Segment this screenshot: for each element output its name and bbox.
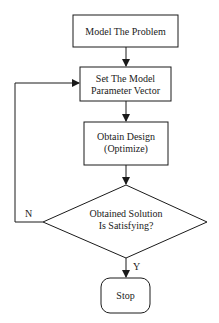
node-set-parameter-vector: Set The Model Parameter Vector (80, 67, 171, 101)
node-decision-satisfying: Obtained Solution Is Satisfying? (43, 185, 207, 258)
node-label-line-1: Obtain Design (97, 131, 155, 142)
flowchart: Model The Problem Set The Model Paramete… (0, 0, 219, 323)
edge-label-no: N (25, 208, 32, 219)
node-label-line-1: Obtained Solution (89, 208, 162, 219)
node-label-line-1: Set The Model (96, 73, 155, 84)
node-label-line-2: Parameter Vector (91, 85, 161, 96)
node-obtain-design: Obtain Design (Optimize) (84, 122, 168, 165)
node-stop-terminal: Stop (101, 278, 150, 313)
edge-decision-to-setparam-feedback (15, 83, 79, 222)
node-model-the-problem: Model The Problem (73, 15, 178, 47)
edge-label-yes: Y (133, 261, 140, 272)
node-label: Model The Problem (85, 26, 166, 37)
node-label: Stop (116, 290, 134, 301)
node-label-line-2: (Optimize) (104, 143, 148, 155)
node-label-line-2: Is Satisfying? (99, 220, 154, 231)
